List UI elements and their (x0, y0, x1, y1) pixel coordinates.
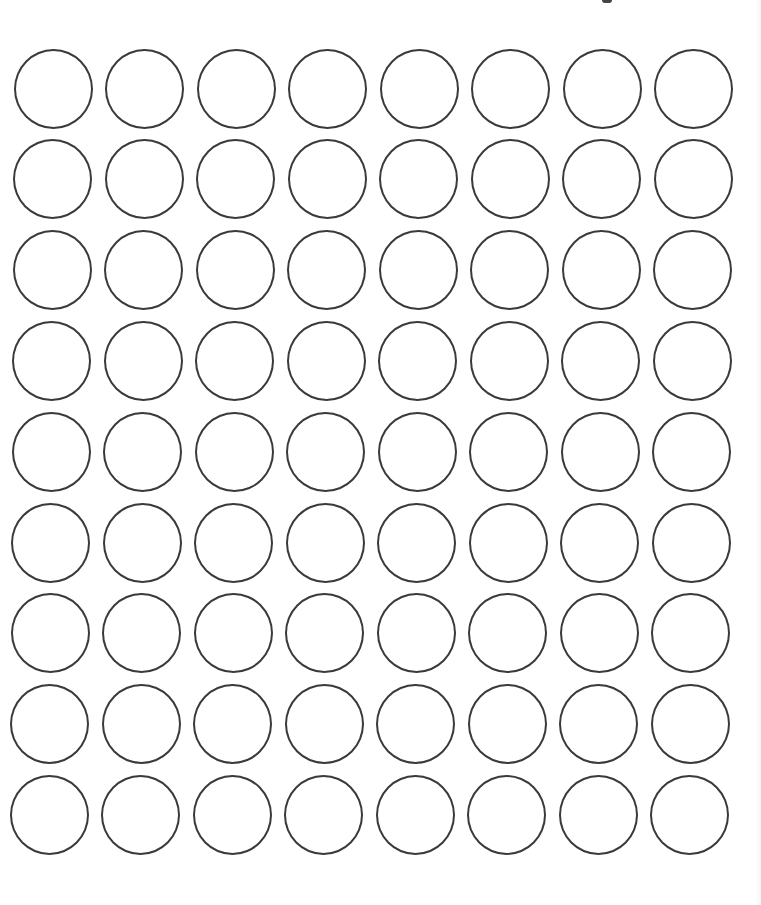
circle-label-r5-c4[interactable] (286, 412, 365, 492)
circle-label-r5-c8[interactable] (652, 412, 731, 492)
circle-label-r8-c8[interactable] (651, 684, 730, 764)
circle-label-r2-c4[interactable] (288, 139, 367, 219)
circle-label-r1-c2[interactable] (105, 49, 184, 129)
circle-label-r2-c6[interactable] (471, 139, 550, 219)
circle-label-r6-c8[interactable] (652, 503, 731, 583)
circle-label-r4-c2[interactable] (104, 321, 183, 401)
circle-label-r4-c7[interactable] (561, 321, 640, 401)
circle-label-r5-c3[interactable] (195, 412, 274, 492)
circle-label-r6-c3[interactable] (194, 503, 273, 583)
circle-label-r8-c1[interactable] (10, 684, 89, 764)
circle-label-r8-c7[interactable] (559, 684, 638, 764)
circle-label-r7-c7[interactable] (560, 593, 639, 673)
circle-label-r7-c5[interactable] (377, 593, 456, 673)
circle-label-r5-c1[interactable] (12, 412, 91, 492)
circle-label-r7-c1[interactable] (11, 593, 90, 673)
circle-label-r1-c7[interactable] (563, 49, 642, 129)
circle-label-r9-c5[interactable] (376, 775, 455, 855)
circle-label-r2-c5[interactable] (379, 139, 458, 219)
circle-label-r6-c2[interactable] (103, 503, 182, 583)
circle-label-r8-c6[interactable] (468, 684, 547, 764)
circle-label-r7-c8[interactable] (651, 593, 730, 673)
circle-label-r4-c1[interactable] (12, 321, 91, 401)
circle-label-r5-c6[interactable] (469, 412, 548, 492)
circle-label-r9-c4[interactable] (284, 775, 363, 855)
circle-label-r3-c6[interactable] (470, 230, 549, 310)
circle-label-r6-c4[interactable] (286, 503, 365, 583)
circle-label-r1-c5[interactable] (380, 49, 459, 129)
circle-label-r6-c1[interactable] (11, 503, 90, 583)
circle-label-r9-c3[interactable] (193, 775, 272, 855)
circle-label-r5-c2[interactable] (103, 412, 182, 492)
circle-label-r1-c4[interactable] (288, 49, 367, 129)
circle-label-r5-c5[interactable] (378, 412, 457, 492)
circle-label-r7-c3[interactable] (194, 593, 273, 673)
circle-label-r3-c2[interactable] (104, 230, 183, 310)
circle-label-r5-c7[interactable] (561, 412, 640, 492)
circle-label-r1-c8[interactable] (654, 49, 733, 129)
circle-label-r8-c4[interactable] (285, 684, 364, 764)
circle-label-r8-c3[interactable] (193, 684, 272, 764)
circle-label-r6-c7[interactable] (560, 503, 639, 583)
circle-label-r8-c5[interactable] (376, 684, 455, 764)
circle-label-r7-c2[interactable] (102, 593, 181, 673)
circle-label-r3-c1[interactable] (13, 230, 92, 310)
circle-label-grid (0, 0, 761, 905)
circle-label-r3-c7[interactable] (562, 230, 641, 310)
circle-label-r1-c1[interactable] (14, 49, 93, 129)
circle-label-r4-c6[interactable] (470, 321, 549, 401)
circle-label-r4-c4[interactable] (287, 321, 366, 401)
circle-label-r9-c7[interactable] (559, 775, 638, 855)
circle-label-r9-c1[interactable] (10, 775, 89, 855)
circle-label-r4-c3[interactable] (195, 321, 274, 401)
circle-label-r8-c2[interactable] (102, 684, 181, 764)
circle-label-r2-c2[interactable] (105, 139, 184, 219)
circle-label-r7-c4[interactable] (285, 593, 364, 673)
circle-label-r1-c6[interactable] (471, 49, 550, 129)
circle-label-r2-c1[interactable] (13, 139, 92, 219)
circle-label-r6-c5[interactable] (377, 503, 456, 583)
page-edge-shadow (755, 0, 761, 905)
circle-label-r3-c3[interactable] (196, 230, 275, 310)
circle-label-r3-c4[interactable] (287, 230, 366, 310)
label-sheet-page (0, 0, 761, 905)
circle-label-r9-c2[interactable] (101, 775, 180, 855)
circle-label-r4-c5[interactable] (378, 321, 457, 401)
circle-label-r6-c6[interactable] (469, 503, 548, 583)
circle-label-r3-c8[interactable] (653, 230, 732, 310)
circle-label-r9-c6[interactable] (467, 775, 546, 855)
circle-label-r7-c6[interactable] (468, 593, 547, 673)
circle-label-r2-c7[interactable] (562, 139, 641, 219)
circle-label-r2-c8[interactable] (654, 139, 733, 219)
circle-label-r9-c8[interactable] (650, 775, 729, 855)
circle-label-r2-c3[interactable] (196, 139, 275, 219)
circle-label-r3-c5[interactable] (379, 230, 458, 310)
circle-label-r4-c8[interactable] (653, 321, 732, 401)
circle-label-r1-c3[interactable] (197, 49, 276, 129)
